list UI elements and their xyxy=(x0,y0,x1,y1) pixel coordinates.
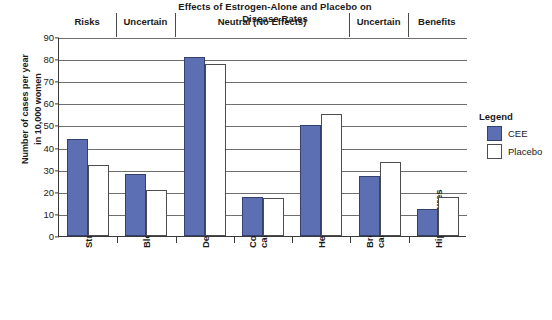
x-tick-mark xyxy=(176,236,177,243)
bar-placebo-breast-cancer xyxy=(380,162,401,236)
y-tick-label: 50 xyxy=(24,121,54,131)
band-divider xyxy=(408,13,409,37)
y-tick-mark xyxy=(55,126,59,127)
band-divider xyxy=(175,13,176,37)
band-label-uncertain-3: Uncertain xyxy=(349,16,407,28)
y-tick-mark xyxy=(55,82,59,83)
bar-placebo-colorectal-cancer xyxy=(263,198,284,236)
y-tick-label: 80 xyxy=(24,55,54,65)
gridline xyxy=(59,126,467,127)
bar-placebo-heart-attacks xyxy=(321,114,342,236)
bar-cee-colorectal-cancer xyxy=(242,197,263,236)
x-tick-mark xyxy=(117,236,118,243)
gridline xyxy=(59,38,467,39)
chart-title-line-1: Effects of Estrogen-Alone and Placebo on xyxy=(178,1,372,12)
bar-cee-blood-clots xyxy=(125,174,146,236)
legend-swatch-cee-icon xyxy=(487,126,502,141)
band-label-uncertain-1: Uncertain xyxy=(116,16,174,28)
x-tick-mark xyxy=(292,236,293,243)
bar-placebo-deaths xyxy=(205,64,226,236)
plot-area: 0102030405060708090 xyxy=(58,38,466,237)
y-tick-label: 0 xyxy=(24,232,54,242)
y-tick-label: 70 xyxy=(24,77,54,87)
bar-placebo-hip-fractures xyxy=(438,197,459,236)
band-label-neutral-no-effects--2: Neutral (No Effects) xyxy=(175,16,350,28)
legend-item-placebo: Placebo xyxy=(487,144,542,159)
bar-cee-breast-cancer xyxy=(359,176,380,236)
bar-cee-heart-attacks xyxy=(300,125,321,236)
legend-title: Legend xyxy=(479,111,542,122)
y-tick-mark xyxy=(55,192,59,193)
y-tick-label: 90 xyxy=(24,33,54,43)
y-tick-mark xyxy=(55,148,59,149)
band-label-benefits-4: Benefits xyxy=(408,16,466,28)
gridline xyxy=(59,149,467,150)
y-tick-label: 10 xyxy=(24,210,54,220)
y-tick-mark xyxy=(55,236,59,237)
bar-cee-deaths xyxy=(184,57,205,236)
gridline xyxy=(59,104,467,105)
x-tick-mark xyxy=(409,236,410,243)
y-tick-mark xyxy=(55,37,59,38)
y-tick-label: 60 xyxy=(24,99,54,109)
gridline xyxy=(59,60,467,61)
y-tick-label: 20 xyxy=(24,188,54,198)
y-tick-mark xyxy=(55,214,59,215)
band-label-risks-0: Risks xyxy=(58,16,116,28)
y-tick-mark xyxy=(55,60,59,61)
bar-placebo-strokes xyxy=(88,165,109,236)
legend-item-cee: CEE xyxy=(487,126,542,141)
bar-placebo-blood-clots xyxy=(146,190,167,236)
legend: Legend CEE Placebo xyxy=(479,111,542,162)
y-tick-mark xyxy=(55,170,59,171)
legend-label-placebo: Placebo xyxy=(508,146,542,157)
y-tick-label: 30 xyxy=(24,166,54,176)
y-tick-label: 40 xyxy=(24,144,54,154)
band-divider xyxy=(116,13,117,37)
bar-cee-strokes xyxy=(67,139,88,236)
band-divider xyxy=(349,13,350,37)
x-tick-mark xyxy=(350,236,351,243)
legend-swatch-placebo-icon xyxy=(487,144,502,159)
legend-label-cee: CEE xyxy=(508,128,528,139)
gridline xyxy=(59,82,467,83)
x-tick-mark xyxy=(234,236,235,243)
bar-chart: Effects of Estrogen-Alone and Placebo on… xyxy=(0,0,552,320)
bar-cee-hip-fractures xyxy=(417,209,438,236)
y-tick-mark xyxy=(55,104,59,105)
